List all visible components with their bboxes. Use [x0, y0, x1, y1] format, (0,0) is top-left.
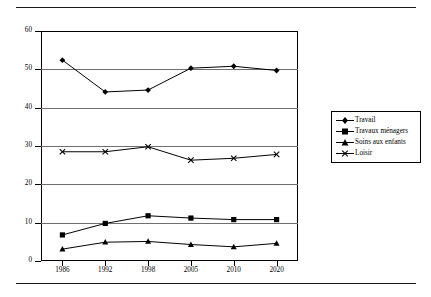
legend-item-travail[interactable]: Travail — [335, 115, 417, 126]
legend-label: Loisir — [355, 148, 372, 159]
legend-item-travaux-menagers[interactable]: Travaux ménagers — [335, 126, 417, 137]
y-tick-mark — [35, 146, 41, 147]
legend-item-loisir[interactable]: Loisir — [335, 148, 417, 159]
gridline — [41, 69, 298, 70]
x-tick-label: 2010 — [214, 266, 254, 275]
x-tick-label: 2005 — [171, 266, 211, 275]
cross-marker-icon — [335, 148, 355, 159]
legend-label: Soins aux enfants — [355, 137, 406, 148]
gridline — [41, 184, 298, 185]
legend-label: Travaux ménagers — [355, 126, 408, 137]
chart-legend: Travail Travaux ménagers Soins aux enfan… — [331, 111, 421, 163]
square-marker-icon — [335, 126, 355, 137]
chart-page: 6050403020100 198619921998200520102020 T… — [0, 0, 431, 297]
x-tick-label: 1986 — [42, 266, 82, 275]
triangle-marker-icon — [335, 137, 355, 148]
y-tick-label: 30 — [0, 142, 32, 149]
y-tick-label: 10 — [0, 219, 32, 226]
y-tick-mark — [35, 69, 41, 70]
y-tick-label: 60 — [0, 27, 32, 34]
legend-label: Travail — [355, 115, 376, 126]
y-tick-mark — [35, 261, 41, 262]
y-tick-label: 40 — [0, 104, 32, 111]
x-tick-label: 1998 — [128, 266, 168, 275]
gridline — [41, 223, 298, 224]
legend-item-soins-aux-enfants[interactable]: Soins aux enfants — [335, 137, 417, 148]
gridline — [41, 146, 298, 147]
y-tick-label: 50 — [0, 65, 32, 72]
y-tick-mark — [35, 108, 41, 109]
diamond-marker-icon — [335, 115, 355, 126]
gridline — [41, 108, 298, 109]
y-tick-mark — [35, 31, 41, 32]
y-tick-label: 20 — [0, 180, 32, 187]
y-tick-mark — [35, 184, 41, 185]
y-tick-label: 0 — [0, 257, 32, 264]
x-tick-label: 2020 — [257, 266, 297, 275]
y-tick-mark — [35, 223, 41, 224]
x-tick-label: 1992 — [85, 266, 125, 275]
